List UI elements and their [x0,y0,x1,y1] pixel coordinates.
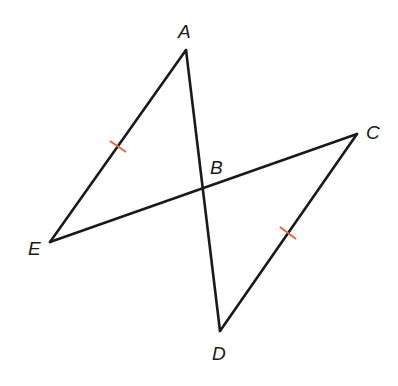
geometry-diagram: A B C D E [0,0,398,386]
congruence-tick-cd [280,227,296,239]
label-c: C [366,122,380,143]
segment-ad [186,50,220,331]
label-a: A [177,21,191,42]
label-b: B [210,157,223,178]
label-e: E [28,238,41,259]
label-d: D [212,343,226,364]
congruence-tick-ae [110,141,126,152]
segment-ec [50,134,357,242]
